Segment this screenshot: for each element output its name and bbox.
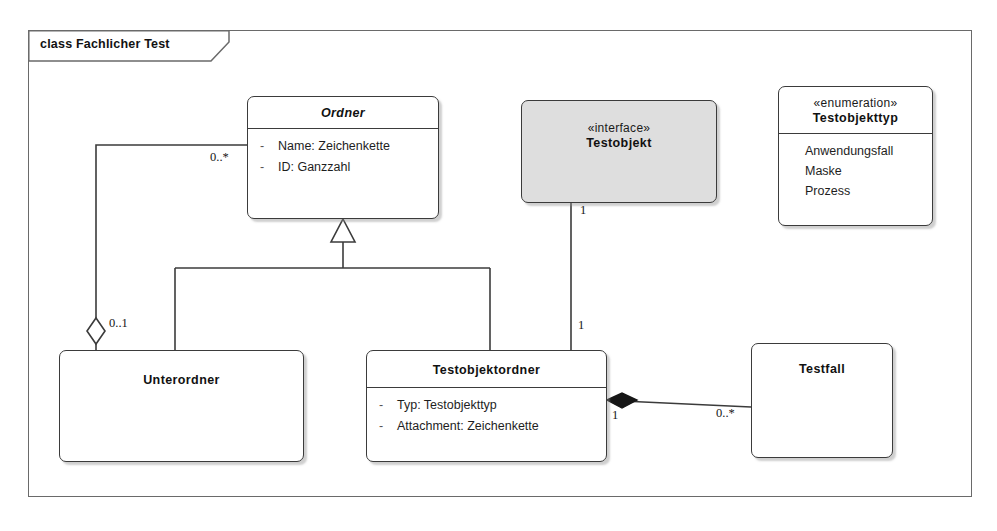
multiplicity-ordner-aggregation-source: 0..*: [210, 150, 229, 165]
class-name-testobjekttyp: Testobjekttyp: [779, 111, 932, 126]
attribute-row: - Typ: Testobjekttyp: [367, 395, 606, 415]
visibility-marker: -: [379, 416, 397, 436]
frame-label: class Fachlicher Test: [40, 37, 170, 51]
class-header-testobjekttyp: «enumeration» Testobjekttyp: [779, 87, 932, 133]
multiplicity-testobjekt-end: 1: [580, 203, 586, 218]
attribute-text: Typ: Testobjekttyp: [397, 395, 497, 415]
class-box-testobjektordner[interactable]: Testobjektordner - Typ: Testobjekttyp - …: [366, 350, 607, 462]
multiplicity-testfall-end: 0..*: [716, 406, 735, 421]
class-name-testfall: Testfall: [752, 362, 892, 377]
class-box-unterordner[interactable]: Unterordner: [59, 350, 304, 462]
class-name-testobjekt: Testobjekt: [522, 136, 716, 151]
visibility-marker: -: [379, 395, 397, 415]
attribute-text: Name: Zeichenkette: [278, 136, 390, 156]
enum-literal: Maske: [779, 161, 932, 181]
enum-literal-list: Anwendungsfall Maske Prozess: [779, 134, 932, 208]
class-box-testobjekt[interactable]: «interface» Testobjekt: [521, 100, 717, 203]
visibility-marker: -: [260, 136, 278, 156]
enum-literal: Prozess: [779, 181, 932, 201]
diagram-frame-tab: class Fachlicher Test: [28, 30, 230, 62]
attribute-text: ID: Ganzzahl: [278, 157, 350, 177]
class-header-testfall: Testfall: [752, 344, 892, 384]
visibility-marker: -: [260, 157, 278, 177]
multiplicity-testobjektordner-composition-end: 1: [612, 408, 618, 423]
attribute-list-ordner: - Name: Zeichenkette - ID: Ganzzahl: [248, 129, 438, 183]
class-name-unterordner: Unterordner: [60, 373, 303, 388]
class-header-unterordner: Unterordner: [60, 351, 303, 395]
class-name-ordner: Ordner: [248, 106, 438, 121]
multiplicity-unterordner-aggregation-target: 0..1: [109, 316, 128, 331]
attribute-list-testobjektordner: - Typ: Testobjekttyp - Attachment: Zeich…: [367, 388, 606, 442]
stereotype-interface: «interface»: [522, 121, 716, 136]
class-header-testobjekt: «interface» Testobjekt: [522, 101, 716, 158]
attribute-text: Attachment: Zeichenkette: [397, 416, 539, 436]
attribute-row: - Name: Zeichenkette: [248, 136, 438, 156]
class-box-ordner[interactable]: Ordner - Name: Zeichenkette - ID: Ganzza…: [247, 96, 439, 219]
class-header-testobjektordner: Testobjektordner: [367, 351, 606, 387]
multiplicity-testobjektordner-interface-end: 1: [578, 318, 584, 333]
attribute-row: - ID: Ganzzahl: [248, 157, 438, 177]
enum-literal: Anwendungsfall: [779, 141, 932, 161]
class-name-testobjektordner: Testobjektordner: [367, 363, 606, 378]
class-header-ordner: Ordner: [248, 97, 438, 128]
class-box-testobjekttyp[interactable]: «enumeration» Testobjekttyp Anwendungsfa…: [778, 86, 933, 226]
attribute-row: - Attachment: Zeichenkette: [367, 416, 606, 436]
uml-class-diagram: class Fachlicher Test: [0, 0, 997, 531]
stereotype-enumeration: «enumeration»: [779, 96, 932, 111]
class-box-testfall[interactable]: Testfall: [751, 343, 893, 458]
